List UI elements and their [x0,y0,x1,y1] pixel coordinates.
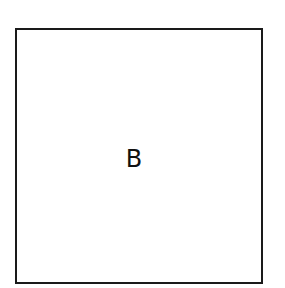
square-box-b: B [15,28,263,284]
box-label-container: B [17,30,261,282]
box-label: B [126,145,142,173]
